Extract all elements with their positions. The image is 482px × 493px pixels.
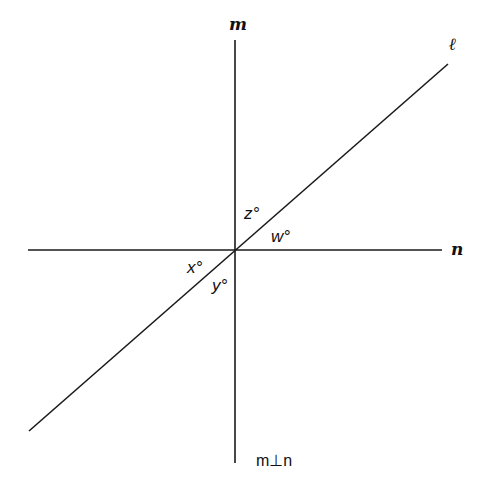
perpendicular-note: m⊥n <box>256 452 292 469</box>
line-l-label: ℓ <box>449 34 456 54</box>
line-n-label: n <box>451 239 463 259</box>
angle-y-label: y° <box>211 276 228 295</box>
angle-w-label: w° <box>271 227 290 246</box>
line-m-label: m <box>229 14 247 34</box>
angle-z-label: z° <box>243 204 260 223</box>
angle-x-label: x° <box>186 258 203 277</box>
geometry-diagram: m n ℓ z° w° x° y° m⊥n <box>0 0 482 493</box>
line-l <box>29 64 448 431</box>
